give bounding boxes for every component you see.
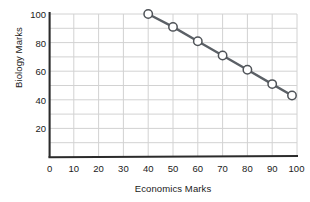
data-point-marker [268,80,276,88]
y-tick-label-60: 60 [20,67,46,77]
y-tick-label-100: 100 [20,10,46,20]
chart-container: 100 80 60 40 20 Biology Marks [0,0,309,202]
data-point-marker [169,23,177,31]
data-point-marker [144,10,152,18]
y-tick-label-20: 20 [20,124,46,134]
x-axis-title: Economics Marks [48,183,298,194]
y-tick-label-80: 80 [20,39,46,49]
data-point-marker [243,66,251,74]
y-tick-label-40: 40 [20,96,46,106]
x-tick-label-100: 100 [282,164,310,174]
y-axis-title: Biology Marks [13,3,24,113]
data-point-marker [194,37,202,45]
data-point-marker [218,51,226,59]
data-point-marker [288,91,296,99]
